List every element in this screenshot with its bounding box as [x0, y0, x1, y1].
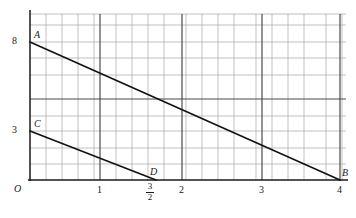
fraction-numerator: 3	[144, 182, 156, 191]
x-tick-label-three-halves: 3 2	[144, 182, 156, 203]
y-tick-label-8: 8	[12, 36, 17, 46]
line-segment-AB	[30, 42, 340, 180]
x-tick-label-3: 3	[259, 185, 264, 195]
x-tick-label-2: 2	[179, 185, 184, 195]
x-tick-label-4: 4	[337, 185, 342, 195]
axes	[28, 10, 348, 181]
minor-gridlines	[30, 14, 346, 180]
y-tick-label-3: 3	[12, 125, 17, 135]
point-label-B: B	[342, 168, 348, 178]
point-label-C: C	[34, 119, 41, 129]
fraction-denominator: 2	[144, 193, 156, 202]
plot-lines	[30, 42, 340, 180]
point-label-A: A	[34, 30, 40, 40]
graph-figure: 8 3 O 1 3 2 2 3 4 A B C D	[0, 0, 356, 218]
origin-label: O	[14, 184, 21, 194]
point-label-D: D	[150, 167, 157, 177]
graph-canvas	[0, 0, 356, 218]
x-tick-label-1: 1	[97, 185, 102, 195]
line-segment-CD	[30, 131, 156, 180]
major-gridlines	[30, 14, 346, 180]
